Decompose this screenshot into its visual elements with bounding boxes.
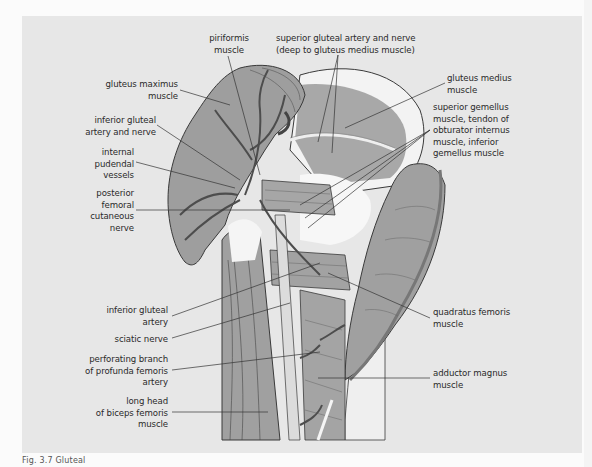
- adductor-magnus-shape: [300, 290, 345, 440]
- label-superior-gluteal-artery-nerve: superior gluteal artery and nerve (deep …: [276, 33, 416, 56]
- label-quadratus-femoris-muscle: quadratus femoris muscle: [433, 307, 510, 330]
- label-gemelli-obturator-internus: superior gemellus muscle, tendon of obtu…: [433, 102, 510, 160]
- figure-caption: Fig. 3.7 Gluteal: [22, 456, 86, 465]
- label-posterior-femoral-cutaneous-nerve: posterior femoral cutaneous nerve: [74, 188, 134, 234]
- label-long-head-biceps-femoris: long head of biceps femoris muscle: [60, 396, 168, 431]
- label-internal-pudendal-vessels: internal pudendal vessels: [74, 147, 134, 182]
- label-perforating-branch-profunda-femoris: perforating branch of profunda femoris a…: [60, 354, 168, 389]
- label-gluteus-maximus-muscle: gluteus maximus muscle: [90, 79, 178, 102]
- label-piriformis-muscle: piriformis muscle: [200, 33, 258, 56]
- label-inferior-gluteal-artery: inferior gluteal artery: [80, 305, 168, 328]
- label-inferior-gluteal-artery-and-nerve: inferior gluteal artery and nerve: [76, 115, 156, 138]
- sciatic-nerve-shape: [275, 215, 300, 440]
- label-sciatic-nerve: sciatic nerve: [80, 334, 168, 346]
- label-gluteus-medius-muscle: gluteus medius muscle: [447, 73, 512, 96]
- label-adductor-magnus-muscle: adductor magnus muscle: [433, 368, 507, 391]
